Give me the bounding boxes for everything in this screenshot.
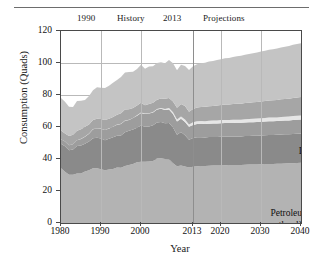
- header-history-label: History: [117, 13, 145, 23]
- series-label-natural-gas: Natural gas: [261, 105, 302, 115]
- header-year-1990: 1990: [77, 13, 95, 23]
- plot-inner: [61, 31, 301, 223]
- gridline-2030: [261, 31, 262, 223]
- series-label-coal: Coal: [261, 174, 302, 184]
- xtick-label-1980: 1980: [46, 226, 74, 236]
- gridline-1990: [101, 31, 102, 223]
- xtick-label-2000: 2000: [126, 226, 154, 236]
- gridline-2000: [141, 31, 142, 223]
- series-label-petroleum-line1: Petroleum and: [270, 208, 302, 218]
- xtick-label-2013: 2013: [178, 226, 206, 236]
- stacked-area-series: [61, 31, 301, 223]
- xtick-label-2020: 2020: [206, 226, 234, 236]
- ytick-label-20: 20: [18, 185, 52, 195]
- xtick-label-2030: 2030: [246, 226, 274, 236]
- y-axis-label: Consumption (Quads): [18, 18, 29, 178]
- header-year-2013: 2013: [163, 13, 181, 23]
- gridline-2020: [221, 31, 222, 223]
- plot-area: Natural gas Renewables Liquid biofuels N…: [60, 30, 302, 224]
- series-label-renewables: Renewables: [261, 136, 302, 146]
- xtick-label-1990: 1990: [86, 226, 114, 236]
- divider-2013: [193, 31, 194, 223]
- header-projections-label: Projections: [203, 13, 245, 23]
- series-label-liquid-biofuels: Liquid biofuels: [246, 146, 302, 156]
- series-label-petroleum: Petroleum and other liquids: [239, 207, 302, 224]
- top-horizontal-rule: [14, 7, 309, 8]
- xtick-label-2040: 2040: [286, 226, 314, 236]
- series-label-nuclear: Nuclear: [261, 156, 302, 166]
- energy-consumption-figure: 1990 History 2013 Projections 120 100 80…: [0, 0, 323, 263]
- series-label-petroleum-line2: other liquids: [274, 220, 302, 224]
- x-axis-label: Year: [60, 243, 300, 254]
